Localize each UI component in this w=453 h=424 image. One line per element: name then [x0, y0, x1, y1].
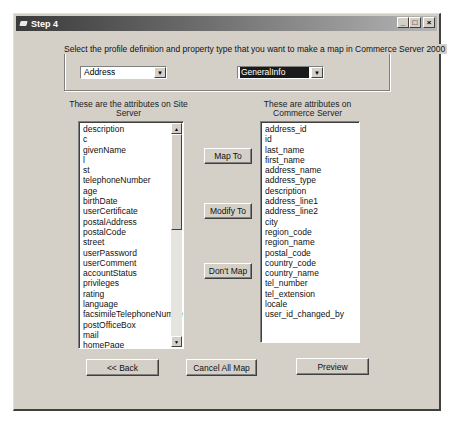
list-item[interactable]: user_id_changed_by — [265, 309, 359, 319]
close-button[interactable]: × — [423, 17, 435, 28]
commerce-server-heading: These are attributes on Commerce Server — [250, 100, 365, 118]
list-item[interactable]: address_type — [265, 175, 359, 185]
list-item[interactable]: description — [265, 186, 359, 196]
scroll-thumb[interactable] — [171, 134, 182, 230]
list-item[interactable]: userCertificate — [83, 206, 183, 216]
window-title: Step 4 — [31, 19, 58, 29]
list-item[interactable]: address_line2 — [265, 206, 359, 216]
site-server-attributes-list[interactable]: descriptioncgivenNamelsttelephoneNumbera… — [78, 121, 184, 349]
list-item[interactable]: address_line1 — [265, 196, 359, 206]
list-item[interactable]: givenName — [83, 145, 183, 155]
dont-map-button[interactable]: Don't Map — [204, 263, 252, 279]
maximize-button[interactable]: □ — [409, 17, 421, 28]
list-item[interactable]: address_name — [265, 165, 359, 175]
list-item[interactable]: street — [83, 237, 183, 247]
commerce-server-attributes-list[interactable]: address_ididlast_namefirst_nameaddress_n… — [260, 121, 360, 343]
profile-definition-value: Address — [83, 67, 116, 78]
profile-selection-group: Select the profile definition and proper… — [64, 49, 390, 91]
list-item[interactable]: postalCode — [83, 227, 183, 237]
list-item[interactable]: userComment — [83, 258, 183, 268]
modify-to-button[interactable]: Modify To — [204, 203, 252, 219]
property-type-dropdown[interactable]: GeneralInfo ▼ — [237, 66, 324, 79]
list-item[interactable]: telephoneNumber — [83, 175, 183, 185]
site-server-heading: These are the attributes on Site Server — [66, 100, 191, 118]
list-item[interactable]: city — [265, 217, 359, 227]
list-item[interactable]: c — [83, 134, 183, 144]
window-controls: _ □ × — [397, 17, 435, 28]
list-item[interactable]: age — [83, 186, 183, 196]
list-item[interactable]: userPassword — [83, 248, 183, 258]
cancel-all-map-button[interactable]: Cancel All Map — [186, 359, 257, 376]
site-server-items: descriptioncgivenNamelsttelephoneNumbera… — [79, 122, 183, 349]
list-item[interactable]: accountStatus — [83, 268, 183, 278]
group-legend: Select the profile definition and proper… — [62, 44, 447, 54]
list-item[interactable]: privileges — [83, 278, 183, 288]
list-item[interactable]: first_name — [265, 155, 359, 165]
back-button[interactable]: << Back — [86, 359, 159, 376]
profile-definition-dropdown[interactable]: Address ▼ — [80, 66, 167, 79]
commerce-server-items: address_ididlast_namefirst_nameaddress_n… — [261, 122, 359, 320]
list-item[interactable]: id — [265, 134, 359, 144]
list-item[interactable]: region_code — [265, 227, 359, 237]
list-item[interactable]: rating — [83, 289, 183, 299]
list-item[interactable]: country_code — [265, 258, 359, 268]
step4-window: Step 4 _ □ × Select the profile definiti… — [13, 13, 441, 411]
list-item[interactable]: postal_code — [265, 248, 359, 258]
property-type-value: GeneralInfo — [240, 67, 309, 78]
list-item[interactable]: postalAddress — [83, 217, 183, 227]
list-item[interactable]: address_id — [265, 124, 359, 134]
list-item[interactable]: description — [83, 124, 183, 134]
list-item[interactable]: region_name — [265, 237, 359, 247]
minimize-icon: _ — [401, 19, 405, 27]
list-item[interactable]: homePage — [83, 340, 183, 349]
list-item[interactable]: tel_number — [265, 278, 359, 288]
preview-button[interactable]: Preview — [296, 358, 369, 375]
maximize-icon: □ — [413, 19, 418, 27]
map-to-button[interactable]: Map To — [204, 148, 252, 164]
scroll-down-arrow-icon[interactable]: ▼ — [171, 336, 182, 347]
list-item[interactable]: mail — [83, 330, 183, 340]
list-item[interactable]: birthDate — [83, 196, 183, 206]
list-item[interactable]: st — [83, 165, 183, 175]
title-bar[interactable]: Step 4 _ □ × — [16, 16, 437, 31]
list-item[interactable]: l — [83, 155, 183, 165]
chevron-down-icon[interactable]: ▼ — [311, 67, 323, 78]
list-item[interactable]: postOfficeBox — [83, 320, 183, 330]
list-item[interactable]: country_name — [265, 268, 359, 278]
scroll-up-arrow-icon[interactable]: ▲ — [171, 123, 182, 134]
site-list-scrollbar[interactable]: ▲ ▼ — [171, 123, 182, 347]
list-item[interactable]: tel_extension — [265, 289, 359, 299]
list-item[interactable]: facsimileTelephoneNumber — [83, 309, 183, 319]
chevron-down-icon[interactable]: ▼ — [154, 67, 166, 78]
minimize-button[interactable]: _ — [397, 17, 409, 28]
close-icon: × — [427, 19, 432, 27]
list-item[interactable]: language — [83, 299, 183, 309]
list-item[interactable]: last_name — [265, 145, 359, 155]
list-item[interactable]: locale — [265, 299, 359, 309]
app-icon — [19, 21, 27, 26]
